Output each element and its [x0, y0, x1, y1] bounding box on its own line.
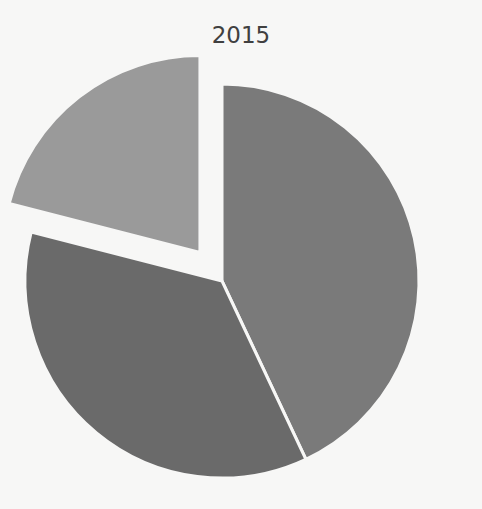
pie-slice-3	[9, 56, 200, 253]
pie-chart	[0, 0, 482, 509]
